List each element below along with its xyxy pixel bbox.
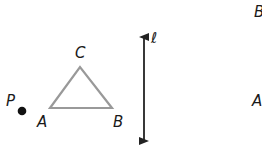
- triangle-abc: [50, 67, 112, 108]
- vertex-label-a: A: [36, 113, 47, 131]
- vertex-label-c: C: [75, 44, 86, 62]
- vertex-label-b: B: [113, 113, 123, 131]
- point-p-dot: [18, 107, 27, 116]
- cropped-label-b: B: [254, 3, 262, 21]
- cropped-label-a: A: [251, 92, 262, 110]
- line-label-l: ℓ: [150, 29, 157, 47]
- point-label-p: P: [6, 92, 16, 110]
- geometry-diagram: C A B P ℓ B A: [0, 0, 262, 148]
